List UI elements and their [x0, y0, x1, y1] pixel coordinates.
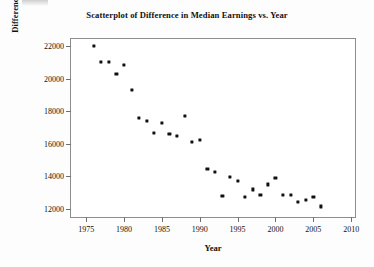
y-axis-tick-label: 12000: [44, 204, 64, 213]
scatter-point: [289, 193, 292, 196]
y-axis-label: Difference in Median Earnings: [10, 0, 24, 66]
scatter-point: [221, 194, 224, 197]
y-axis-tick-label: 14000: [44, 172, 64, 181]
x-axis-tick: [313, 217, 314, 222]
x-axis-tick-label: 1980: [116, 225, 132, 234]
x-axis-tick: [351, 217, 352, 222]
scatter-point: [153, 132, 156, 135]
scatter-point: [304, 198, 307, 201]
scatter-point: [122, 63, 125, 66]
scatter-point: [319, 205, 322, 208]
scatter-point: [274, 176, 277, 179]
y-axis-tick: [66, 111, 71, 112]
scatter-point: [213, 171, 216, 174]
x-axis-label: Year: [70, 243, 356, 253]
scatter-points-layer: [71, 39, 355, 217]
y-axis-tick: [66, 209, 71, 210]
y-axis-tick: [66, 176, 71, 177]
scatter-point: [198, 138, 201, 141]
scatter-point: [251, 188, 254, 191]
x-axis-tick: [200, 217, 201, 222]
scatter-point: [266, 183, 269, 186]
scatter-point: [191, 141, 194, 144]
y-axis-tick: [66, 144, 71, 145]
x-axis-tick: [124, 217, 125, 222]
y-axis-tick-label: 20000: [44, 74, 64, 83]
x-axis-tick: [86, 217, 87, 222]
scatter-point: [145, 119, 148, 122]
x-axis-tick-label: 2000: [267, 225, 283, 234]
scatter-point: [107, 60, 110, 63]
x-axis-tick-label: 1985: [154, 225, 170, 234]
chart-figure: Scatterplot of Difference in Median Earn…: [0, 0, 374, 267]
x-axis-tick: [275, 217, 276, 222]
scatter-point: [183, 115, 186, 118]
x-axis-tick-label: 1995: [230, 225, 246, 234]
scatter-point: [206, 167, 209, 170]
y-axis-tick-label: 16000: [44, 139, 64, 148]
plot-area: 1200014000160001800020000220001975198019…: [70, 38, 356, 218]
x-axis-tick-label: 2010: [343, 225, 359, 234]
scatter-point: [92, 44, 95, 47]
scatter-point: [244, 195, 247, 198]
y-axis-tick-label: 22000: [44, 42, 64, 51]
x-axis-tick-label: 1990: [192, 225, 208, 234]
x-axis-tick: [162, 217, 163, 222]
x-axis-tick: [238, 217, 239, 222]
scatter-point: [281, 193, 284, 196]
y-axis-tick: [66, 46, 71, 47]
scatter-point: [160, 121, 163, 124]
scatter-point: [175, 134, 178, 137]
x-axis-tick-label: 1975: [78, 225, 94, 234]
scatter-point: [138, 116, 141, 119]
scatter-point: [100, 60, 103, 63]
scatter-point: [168, 133, 171, 136]
y-axis-tick: [66, 79, 71, 80]
scatter-point: [312, 195, 315, 198]
scatter-point: [130, 89, 133, 92]
x-axis-tick-label: 2005: [305, 225, 321, 234]
scatter-point: [115, 72, 118, 75]
scatter-point: [259, 193, 262, 196]
scan-artifact: [22, 0, 48, 6]
scatter-point: [228, 176, 231, 179]
scatter-point: [236, 180, 239, 183]
scatter-point: [297, 200, 300, 203]
y-axis-tick-label: 18000: [44, 107, 64, 116]
chart-title: Scatterplot of Difference in Median Earn…: [0, 10, 374, 20]
